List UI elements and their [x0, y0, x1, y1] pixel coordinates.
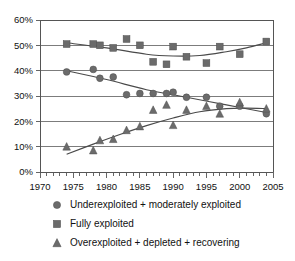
data-point-circle [203, 94, 210, 101]
data-point-square [150, 58, 157, 65]
trend-line [67, 108, 267, 154]
y-tick-label: 40% [14, 65, 34, 76]
legend-label: Overexploited + depleted + recovering [70, 237, 240, 248]
legend-label: Fully exploited [70, 218, 134, 229]
data-point-square [203, 60, 210, 67]
gridlines [40, 20, 273, 147]
y-tick-label: 10% [14, 141, 34, 152]
data-point-square [216, 43, 223, 50]
data-point-circle [150, 90, 157, 97]
legend-marker-square [53, 220, 60, 227]
chart-container: 0%10%20%30%40%50%60% 1970197519801985199… [0, 0, 295, 261]
x-tick-label: 2000 [229, 181, 250, 192]
data-point-square [263, 38, 270, 45]
data-point-triangle [183, 106, 191, 114]
x-tick-label: 1990 [163, 181, 184, 192]
data-point-square [183, 53, 190, 60]
data-point-triangle [236, 98, 244, 106]
data-point-triangle [136, 122, 144, 130]
x-tick-label: 1985 [129, 181, 150, 192]
x-tick-label: 1980 [96, 181, 117, 192]
data-point-triangle [96, 136, 104, 144]
y-axis-tick-labels: 0%10%20%30%40%50%60% [14, 14, 34, 177]
data-point-triangle [169, 121, 177, 129]
x-tick-label: 1970 [29, 181, 50, 192]
scatter-chart: 0%10%20%30%40%50%60% 1970197519801985199… [0, 0, 295, 261]
legend-marker-circle [53, 201, 60, 208]
chart-legend: Underexploited + moderately exploitedFul… [53, 199, 241, 248]
trend-lines [67, 43, 267, 154]
y-tick-label: 50% [14, 40, 34, 51]
data-point-square [170, 43, 177, 50]
data-point-circle [123, 91, 130, 98]
data-point-triangle [89, 146, 97, 154]
legend-label: Underexploited + moderately exploited [70, 199, 241, 210]
data-point-square [236, 51, 243, 58]
data-point-circle [136, 90, 143, 97]
data-point-triangle [149, 106, 157, 114]
data-points [63, 36, 270, 154]
data-point-square [63, 41, 70, 48]
data-point-circle [163, 90, 170, 97]
y-tick-label: 60% [14, 14, 34, 25]
y-tick-label: 0% [19, 166, 33, 177]
data-point-circle [216, 103, 223, 110]
data-point-square [136, 42, 143, 49]
data-point-square [97, 42, 104, 49]
data-point-circle [110, 74, 117, 81]
data-point-circle [97, 75, 104, 82]
data-point-square [90, 41, 97, 48]
x-tick-label: 1975 [63, 181, 84, 192]
legend-marker-triangle [53, 239, 61, 247]
data-point-circle [90, 66, 97, 73]
y-tick-label: 20% [14, 116, 34, 127]
data-point-circle [63, 69, 70, 76]
data-point-triangle [203, 102, 211, 110]
data-point-triangle [163, 101, 171, 109]
data-point-circle [183, 94, 190, 101]
x-tick-label: 1995 [196, 181, 217, 192]
data-point-triangle [216, 110, 224, 118]
x-tick-label: 2005 [262, 181, 283, 192]
data-point-triangle [123, 126, 131, 134]
data-point-circle [170, 89, 177, 96]
data-point-square [123, 36, 130, 43]
x-axis-tick-labels: 19701975198019851990199520002005 [29, 181, 283, 192]
data-point-square [110, 44, 117, 51]
y-tick-label: 30% [14, 90, 34, 101]
data-point-square [163, 61, 170, 68]
